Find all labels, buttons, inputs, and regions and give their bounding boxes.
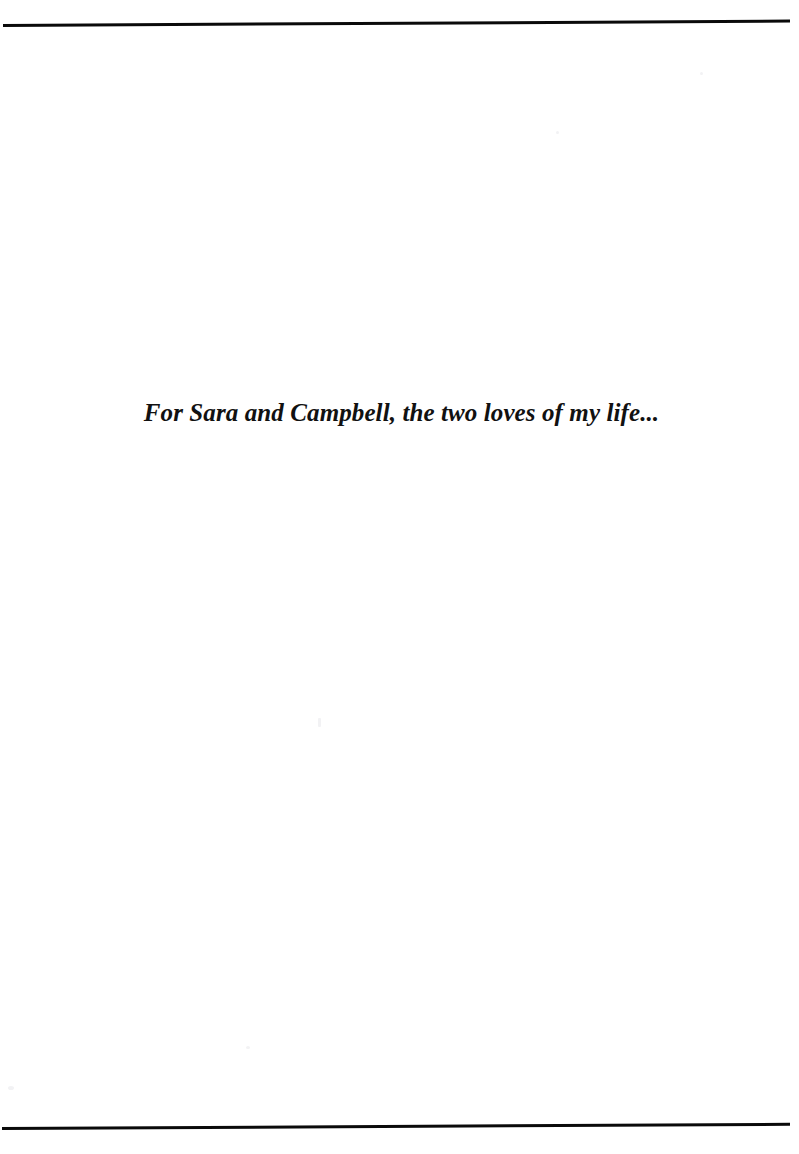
- scan-speckle: [700, 72, 703, 75]
- bottom-page-rule: [2, 1123, 790, 1130]
- scan-speckle: [8, 1086, 14, 1090]
- dedication-text: For Sara and Campbell, the two loves of …: [144, 398, 659, 428]
- scan-speckle: [318, 718, 321, 727]
- scan-speckle: [556, 131, 559, 134]
- scan-speckle: [246, 1046, 250, 1049]
- top-page-rule: [3, 20, 790, 27]
- dedication-page: For Sara and Campbell, the two loves of …: [0, 0, 799, 1154]
- dedication-block: For Sara and Campbell, the two loves of …: [0, 398, 799, 428]
